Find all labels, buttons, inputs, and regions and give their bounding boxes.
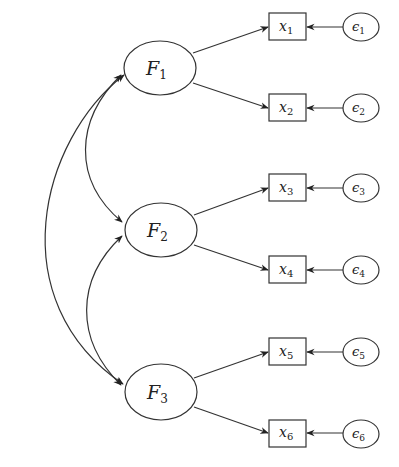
covariance-f1-f2 bbox=[85, 75, 122, 222]
obs-subscript: 6 bbox=[287, 431, 293, 442]
error-arrows bbox=[307, 27, 343, 433]
loading-f1-x2 bbox=[193, 83, 268, 108]
error-e1: ϵ1 bbox=[343, 13, 379, 41]
obs-subscript: 5 bbox=[287, 350, 293, 361]
loading-arrows bbox=[193, 27, 268, 433]
observed-x6: x6 bbox=[269, 420, 306, 447]
latent-factor-f1: F1 bbox=[124, 41, 196, 95]
factor-subscript: 3 bbox=[160, 392, 168, 406]
covariance-arrows bbox=[45, 75, 124, 385]
error-e4: ϵ4 bbox=[343, 256, 379, 284]
loading-f2-x3 bbox=[194, 188, 268, 215]
factor-symbol: F bbox=[145, 57, 160, 79]
obs-subscript: 4 bbox=[287, 268, 293, 279]
obs-symbol: x bbox=[279, 99, 287, 115]
error-e5: ϵ5 bbox=[343, 338, 379, 366]
error-subscript: 6 bbox=[359, 433, 365, 443]
observed-x2: x2 bbox=[269, 94, 306, 121]
error-subscript: 1 bbox=[359, 26, 365, 36]
covariance-f2-f3 bbox=[87, 236, 122, 385]
cfa-diagram: F1 F2 F3 x1 x2 x3 x4 x5 x6 ϵ1 ϵ2 bbox=[0, 0, 399, 467]
factor-subscript: 2 bbox=[160, 230, 168, 244]
obs-symbol: x bbox=[279, 343, 287, 359]
obs-symbol: x bbox=[279, 424, 287, 440]
error-subscript: 3 bbox=[359, 187, 365, 197]
factor-symbol: F bbox=[146, 381, 161, 403]
covariance-f1-f3 bbox=[45, 75, 124, 384]
error-subscript: 2 bbox=[359, 107, 365, 117]
loading-f1-x1 bbox=[193, 27, 268, 53]
obs-subscript: 2 bbox=[287, 106, 293, 117]
error-e6: ϵ6 bbox=[343, 420, 379, 448]
observed-x5: x5 bbox=[269, 338, 306, 365]
obs-symbol: x bbox=[279, 18, 287, 34]
error-e2: ϵ2 bbox=[343, 94, 379, 122]
obs-symbol: x bbox=[279, 261, 287, 277]
latent-factor-f2: F2 bbox=[125, 203, 197, 257]
observed-x1: x1 bbox=[269, 13, 306, 40]
factor-subscript: 1 bbox=[159, 68, 167, 82]
factor-symbol: F bbox=[146, 219, 161, 241]
observed-x3: x3 bbox=[269, 174, 306, 201]
latent-factor-f3: F3 bbox=[125, 364, 197, 420]
loading-f2-x4 bbox=[194, 245, 268, 270]
error-subscript: 5 bbox=[359, 351, 365, 361]
obs-subscript: 3 bbox=[287, 186, 293, 197]
loading-f3-x5 bbox=[194, 352, 268, 378]
observed-x4: x4 bbox=[269, 256, 306, 283]
loading-f3-x6 bbox=[194, 407, 268, 433]
error-e3: ϵ3 bbox=[343, 174, 379, 202]
obs-subscript: 1 bbox=[287, 25, 293, 36]
error-subscript: 4 bbox=[359, 269, 365, 279]
obs-symbol: x bbox=[279, 179, 287, 195]
